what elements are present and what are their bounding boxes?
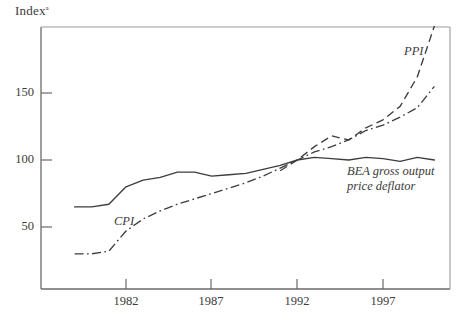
- y-axis-tick-label-50: 50: [4, 219, 34, 234]
- series-annotation-bea-line1: BEA gross output: [347, 164, 435, 179]
- chart-plot-area: [0, 0, 463, 322]
- y-axis-tick-label-100: 100: [4, 152, 34, 167]
- series-annotation-bea-line2: price deflator: [347, 179, 435, 194]
- series-annotation-ppi: PPI: [404, 44, 423, 59]
- series-annotation-bea: BEA gross output price deflator: [347, 164, 435, 195]
- x-axis-tick-label-1992: 1992: [274, 294, 320, 309]
- axis-ticks: [41, 93, 383, 289]
- series-annotation-cpi: CPI: [114, 214, 134, 229]
- y-axis-tick-label-150: 150: [4, 85, 34, 100]
- chart-figure: Indexa 150 100 50 1982 1987 1992 1997 PP…: [0, 0, 463, 322]
- x-axis-tick-label-1987: 1987: [188, 294, 234, 309]
- x-axis-tick-label-1997: 1997: [360, 294, 406, 309]
- x-axis-tick-label-1982: 1982: [103, 294, 149, 309]
- axis-frame: [41, 27, 450, 289]
